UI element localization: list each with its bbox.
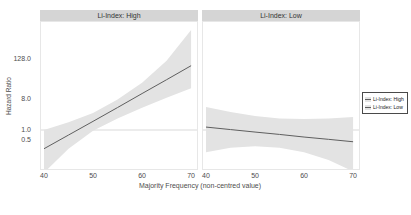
x-tick-label: 40 bbox=[196, 171, 216, 180]
x-axis-title: Majority Frequency (non-centred value) bbox=[40, 182, 360, 189]
legend-item-high: Li-Index: High bbox=[365, 95, 405, 103]
confidence-band-and-trend-line-high bbox=[41, 22, 197, 169]
confidence-band-and-trend-line-low bbox=[203, 22, 359, 169]
legend-item-label: Li-Index: High bbox=[373, 95, 404, 103]
legend: Li-Index: High Li-Index: Low bbox=[362, 92, 408, 114]
legend-key-swatch-high bbox=[365, 97, 371, 102]
y-tick-label: 128.0 bbox=[0, 54, 31, 64]
panel-li-index-high bbox=[40, 21, 198, 170]
legend-key-swatch-low bbox=[365, 105, 371, 110]
facet-strip-label: Li-Index: Low bbox=[260, 12, 302, 19]
hazard-ratio-faceted-chart: Li-Index: High Li-Index: Low Hazard Rati… bbox=[0, 0, 411, 215]
panel-li-index-low bbox=[202, 21, 360, 170]
x-tick-label: 50 bbox=[245, 171, 265, 180]
y-tick-label: 1.0 bbox=[0, 125, 31, 135]
x-tick-label: 60 bbox=[294, 171, 314, 180]
x-tick-label: 50 bbox=[83, 171, 103, 180]
x-tick-label: 60 bbox=[132, 171, 152, 180]
legend-item-low: Li-Index: Low bbox=[365, 103, 405, 111]
legend-item-label: Li-Index: Low bbox=[373, 103, 403, 111]
y-tick-label: 0.5 bbox=[0, 135, 31, 145]
facet-strip-label: Li-Index: High bbox=[97, 12, 140, 19]
x-tick-label: 40 bbox=[34, 171, 54, 180]
facet-strip-li-index-high: Li-Index: High bbox=[40, 10, 198, 21]
y-tick-label: 8.0 bbox=[0, 94, 31, 104]
facet-strip-li-index-low: Li-Index: Low bbox=[202, 10, 360, 21]
x-tick-label: 70 bbox=[343, 171, 363, 180]
